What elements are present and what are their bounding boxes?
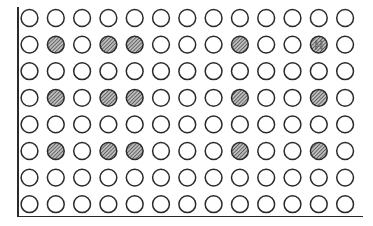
well-empty	[337, 10, 354, 27]
well-empty	[310, 116, 327, 133]
well-empty	[284, 143, 301, 160]
well-empty	[310, 10, 327, 27]
well-empty	[205, 36, 222, 53]
well-empty	[21, 89, 38, 106]
well-empty	[284, 89, 301, 106]
well-empty	[258, 196, 275, 213]
well-empty	[205, 196, 222, 213]
well-empty	[337, 169, 354, 186]
well-shaded	[126, 143, 143, 160]
well-empty	[74, 116, 91, 133]
well-shaded	[310, 89, 327, 106]
well-empty	[74, 143, 91, 160]
well-empty	[232, 10, 249, 27]
well-shaded	[100, 143, 117, 160]
well-empty	[47, 196, 64, 213]
well-empty	[205, 63, 222, 80]
well-empty	[232, 63, 249, 80]
well-empty	[126, 116, 143, 133]
well-shaded	[47, 143, 64, 160]
well-empty	[153, 169, 170, 186]
well-empty	[179, 143, 196, 160]
well-empty	[21, 10, 38, 27]
well-empty	[179, 89, 196, 106]
well-empty	[232, 116, 249, 133]
well-empty	[74, 10, 91, 27]
well-shaded	[232, 89, 249, 106]
well-empty	[74, 89, 91, 106]
well-empty	[284, 196, 301, 213]
well-shaded	[100, 36, 117, 53]
well-shaded	[47, 36, 64, 53]
well-empty	[47, 10, 64, 27]
well-empty	[258, 116, 275, 133]
well-empty	[21, 63, 38, 80]
well-empty	[100, 169, 117, 186]
well-empty	[21, 196, 38, 213]
well-empty	[310, 169, 327, 186]
well-empty	[337, 63, 354, 80]
well-grid: H	[0, 0, 373, 226]
well-empty	[179, 169, 196, 186]
well-empty	[47, 116, 64, 133]
well-empty	[100, 196, 117, 213]
well-empty	[310, 196, 327, 213]
well-empty	[153, 196, 170, 213]
well-empty	[205, 116, 222, 133]
well-empty	[153, 10, 170, 27]
well-empty	[258, 10, 275, 27]
well-empty	[21, 143, 38, 160]
well-shaded	[310, 143, 327, 160]
well-shaded	[126, 36, 143, 53]
well-empty	[153, 63, 170, 80]
well-empty	[258, 63, 275, 80]
well-empty	[205, 10, 222, 27]
well-empty	[179, 63, 196, 80]
well-empty	[284, 36, 301, 53]
well-empty	[21, 169, 38, 186]
well-empty	[310, 63, 327, 80]
well-empty	[179, 10, 196, 27]
well-empty	[74, 63, 91, 80]
well-empty	[258, 169, 275, 186]
well-empty	[74, 196, 91, 213]
well-empty	[232, 196, 249, 213]
well-empty	[205, 89, 222, 106]
well-shaded	[232, 36, 249, 53]
well-empty	[179, 116, 196, 133]
well-empty	[47, 63, 64, 80]
well-empty	[337, 36, 354, 53]
well-empty	[232, 169, 249, 186]
well-empty	[100, 63, 117, 80]
well-empty	[153, 89, 170, 106]
well-empty	[337, 116, 354, 133]
well-empty	[284, 10, 301, 27]
well-empty	[337, 89, 354, 106]
well-empty	[100, 10, 117, 27]
well-empty	[74, 169, 91, 186]
well-empty	[21, 36, 38, 53]
well-empty	[126, 10, 143, 27]
well-empty	[126, 63, 143, 80]
well-shaded	[126, 89, 143, 106]
well-empty	[126, 169, 143, 186]
well-empty	[21, 116, 38, 133]
well-empty	[258, 143, 275, 160]
well-empty	[153, 116, 170, 133]
well-empty	[126, 196, 143, 213]
well-empty	[153, 143, 170, 160]
well-empty	[284, 63, 301, 80]
well-empty	[205, 143, 222, 160]
well-empty	[179, 36, 196, 53]
well-empty	[153, 36, 170, 53]
well-shaded	[232, 143, 249, 160]
well-empty	[47, 169, 64, 186]
well-shaded	[100, 89, 117, 106]
well-empty	[258, 89, 275, 106]
well-empty	[337, 196, 354, 213]
well-empty	[74, 36, 91, 53]
well-empty	[100, 116, 117, 133]
well-empty	[205, 169, 222, 186]
well-empty	[337, 143, 354, 160]
well-empty	[284, 116, 301, 133]
